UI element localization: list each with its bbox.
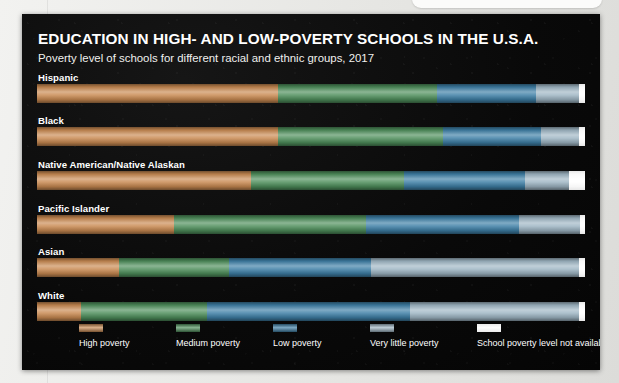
chart-rows: HispanicBlackNative American/Native Alas… (22, 14, 600, 370)
bar-segment (437, 84, 536, 103)
bar-segment (579, 258, 584, 277)
legend-item: High poverty (79, 324, 130, 348)
legend-item: Medium poverty (176, 324, 240, 348)
bar-segment (519, 215, 579, 234)
bar-segment (569, 171, 585, 190)
bar-segment (278, 84, 437, 103)
bar-segment (278, 127, 442, 146)
legend-swatch (477, 324, 501, 332)
row-label: Pacific Islander (38, 203, 109, 214)
legend-swatch (273, 324, 297, 332)
row-label: Black (38, 115, 64, 126)
bar-segment (443, 127, 542, 146)
legend-label: School poverty level not available (477, 338, 600, 348)
bar-segment (525, 171, 569, 190)
legend-swatch (79, 324, 103, 332)
bar-segment (371, 258, 579, 277)
bar-segment (229, 258, 371, 277)
bar-segment (37, 258, 119, 277)
bar-segment (37, 302, 81, 321)
bar-segment (404, 171, 525, 190)
bar-segment (119, 258, 229, 277)
stacked-bar (37, 127, 585, 146)
bar-segment (536, 84, 580, 103)
bar-segment (207, 302, 410, 321)
legend-item: Very little poverty (370, 324, 439, 348)
infographic-panel: EDUCATION IN HIGH- AND LOW-POVERTY SCHOO… (22, 14, 600, 370)
legend-swatch (370, 324, 394, 332)
chart-legend: High povertyMedium povertyLow povertyVer… (22, 324, 600, 364)
legend-label: Medium poverty (176, 338, 240, 348)
legend-label: Very little poverty (370, 338, 439, 348)
stacked-bar (37, 302, 585, 321)
legend-swatch (176, 324, 200, 332)
stacked-bar (37, 258, 585, 277)
bar-segment (81, 302, 207, 321)
bar-segment (579, 127, 584, 146)
legend-item: Low poverty (273, 324, 322, 348)
bar-segment (37, 127, 278, 146)
bar-segment (37, 84, 278, 103)
row-label: Asian (38, 246, 64, 257)
stacked-bar (37, 84, 585, 103)
bar-segment (579, 302, 584, 321)
bar-segment (366, 215, 519, 234)
stacked-bar (37, 171, 585, 190)
bar-segment (37, 215, 174, 234)
bar-segment (541, 127, 579, 146)
bar-segment (37, 171, 251, 190)
bar-segment (579, 84, 584, 103)
legend-label: High poverty (79, 338, 130, 348)
legend-item: School poverty level not available (477, 324, 600, 348)
bar-segment (580, 215, 585, 234)
bar-segment (174, 215, 366, 234)
row-label: White (38, 290, 64, 301)
row-label: Native American/Native Alaskan (38, 159, 185, 170)
row-label: Hispanic (38, 72, 78, 83)
bar-segment (410, 302, 580, 321)
stacked-bar (37, 215, 585, 234)
page-top-notch (412, 0, 602, 8)
bar-segment (251, 171, 404, 190)
legend-label: Low poverty (273, 338, 322, 348)
